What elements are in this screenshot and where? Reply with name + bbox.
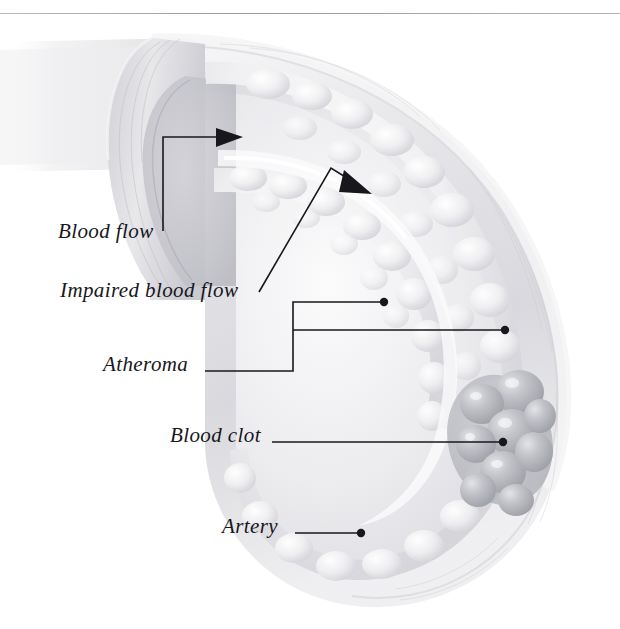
label-impaired-blood-flow: Impaired blood flow bbox=[60, 278, 238, 303]
label-blood-clot: Blood clot bbox=[170, 423, 261, 448]
leader-dot-atheroma-upper bbox=[380, 298, 388, 306]
artery-illustration bbox=[0, 0, 620, 629]
label-artery: Artery bbox=[222, 514, 278, 539]
figure-canvas: Blood flow Impaired blood flow Atheroma … bbox=[0, 0, 620, 629]
leader-dot-atheroma-lower bbox=[501, 326, 509, 334]
label-atheroma: Atheroma bbox=[103, 352, 188, 377]
label-blood-flow: Blood flow bbox=[58, 219, 154, 244]
leader-dot-blood-clot bbox=[499, 438, 507, 446]
leader-dot-artery bbox=[357, 529, 365, 537]
